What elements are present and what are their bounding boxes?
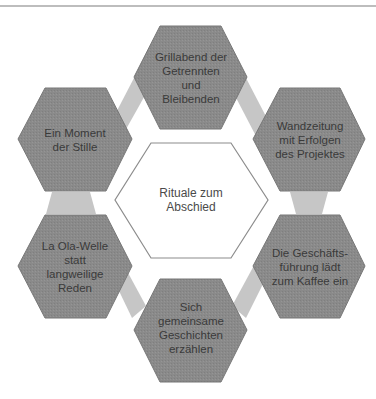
label-bottom: Sich gemeinsame Geschichten erzählen	[138, 286, 244, 370]
connector-lowerleft-upperleft	[46, 192, 96, 214]
label-lower-right: Die Geschäfts- führung lädt zum Kaffee e…	[258, 225, 362, 309]
label-top: Grillabend der Getrennten und Bleibenden	[138, 36, 244, 120]
label-upper-right: Wandzeitung mit Erfolgen des Projektes	[258, 98, 362, 182]
label-center: Rituale zum Abschied	[130, 172, 252, 228]
connector-upperright-lowerright	[290, 192, 328, 214]
label-upper-left: Ein Moment der Stille	[22, 98, 128, 182]
label-lower-left: La Ola-Welle statt langweilige Reden	[22, 225, 128, 309]
